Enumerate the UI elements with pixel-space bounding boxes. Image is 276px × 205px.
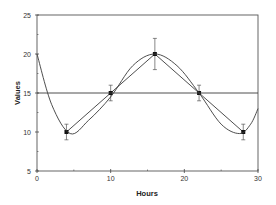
y-tick-label: 25 <box>23 12 31 19</box>
x-tick-label: 0 <box>35 175 39 182</box>
y-tick-label: 15 <box>23 90 31 97</box>
y-tick-label: 10 <box>23 129 31 136</box>
chart: 5101520250102030 Hours Values <box>0 0 276 205</box>
x-tick-label: 10 <box>107 175 115 182</box>
fitted-curve <box>37 54 258 134</box>
data-series <box>37 38 258 139</box>
x-tick-label: 30 <box>254 175 262 182</box>
y-tick-label: 5 <box>27 168 31 175</box>
x-tick-label: 20 <box>180 175 188 182</box>
x-axis-title: Hours <box>136 189 158 198</box>
y-axis-title: Values <box>13 81 22 105</box>
y-tick-label: 20 <box>23 51 31 58</box>
axis-ticks: 5101520250102030 <box>23 12 262 183</box>
